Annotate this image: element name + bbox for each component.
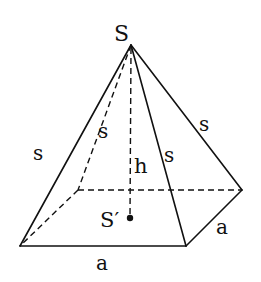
edge-front-right-label: s: [164, 143, 174, 167]
base-left-hidden: [20, 190, 78, 246]
base-center-label: S′: [100, 208, 119, 232]
apex-label: S: [114, 21, 129, 46]
edge-back-left-hidden: [78, 45, 131, 190]
edge-left-label: s: [33, 141, 43, 165]
height-label: h: [134, 154, 148, 178]
edge-back-left-label: s: [98, 119, 108, 143]
base-right: [186, 190, 242, 246]
base-right-label: a: [216, 215, 228, 239]
edge-back-right-label: s: [199, 112, 209, 136]
edge-front-right: [131, 45, 186, 246]
base-center-dot: [127, 215, 133, 221]
height-line: [130, 48, 131, 218]
edge-back-right: [131, 45, 242, 190]
base-front-label: a: [96, 251, 108, 275]
pyramid-diagram: S s s h s s S′ a a: [0, 0, 261, 282]
